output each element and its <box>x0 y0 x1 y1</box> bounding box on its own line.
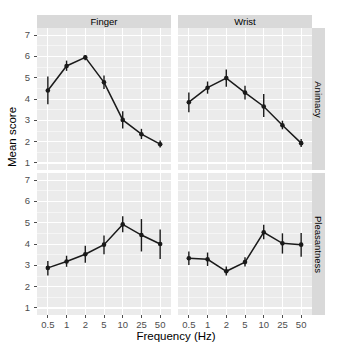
y-tick-mark <box>34 244 37 245</box>
facet-strip-animacy: Animacy <box>312 28 325 170</box>
panel-finger-animacy <box>37 28 171 170</box>
data-point <box>261 104 266 109</box>
y-tick-mark <box>34 286 37 287</box>
panel-wrist-animacy <box>178 28 312 170</box>
series-group <box>178 173 312 315</box>
data-point <box>205 257 210 262</box>
panel-wrist-pleasantness <box>178 173 312 315</box>
x-tick-mark <box>301 315 302 318</box>
y-tick-label: 6 <box>8 50 30 61</box>
data-point <box>102 80 107 85</box>
chart-root: Mean score Frequency (Hz) Finger Wrist A… <box>0 0 352 353</box>
y-tick-mark <box>34 35 37 36</box>
data-point <box>83 252 88 257</box>
facet-strip-finger-label: Finger <box>91 16 118 27</box>
y-tick-label: 4 <box>8 93 30 104</box>
x-tick-mark <box>282 315 283 318</box>
facet-strip-animacy-label: Animacy <box>313 81 324 117</box>
x-tick-mark <box>141 315 142 318</box>
data-point <box>280 123 285 128</box>
data-point <box>46 88 51 93</box>
facet-strip-pleasantness: Pleasantness <box>312 173 325 315</box>
data-point <box>299 242 304 247</box>
y-tick-label: 1 <box>8 157 30 168</box>
data-point <box>243 260 248 265</box>
y-tick-mark <box>34 307 37 308</box>
x-tick-label: 50 <box>289 319 313 330</box>
x-tick-mark <box>104 315 105 318</box>
data-point <box>120 118 125 123</box>
series-group <box>178 28 312 170</box>
y-tick-mark <box>34 162 37 163</box>
data-point <box>187 100 192 105</box>
data-point <box>64 259 69 264</box>
y-tick-mark <box>34 201 37 202</box>
data-point <box>139 233 144 238</box>
data-point <box>187 256 192 261</box>
x-tick-mark <box>188 315 189 318</box>
panel-finger-pleasantness <box>37 173 171 315</box>
series-group <box>37 173 171 315</box>
y-tick-label: 2 <box>8 136 30 147</box>
x-tick-mark <box>122 315 123 318</box>
data-point <box>158 142 163 147</box>
y-tick-mark <box>34 56 37 57</box>
y-tick-label: 1 <box>8 302 30 313</box>
data-point <box>120 222 125 227</box>
y-tick-label: 5 <box>8 217 30 228</box>
x-tick-mark <box>66 315 67 318</box>
series-line <box>48 57 160 144</box>
facet-strip-wrist: Wrist <box>178 15 312 28</box>
x-axis-title: Frequency (Hz) <box>0 330 352 342</box>
x-tick-label: 50 <box>148 319 172 330</box>
data-point <box>299 141 304 146</box>
x-tick-mark <box>85 315 86 318</box>
x-tick-mark <box>207 315 208 318</box>
y-tick-mark <box>34 141 37 142</box>
data-point <box>139 132 144 137</box>
y-tick-mark <box>34 77 37 78</box>
data-point <box>102 242 107 247</box>
y-tick-label: 2 <box>8 281 30 292</box>
x-tick-mark <box>263 315 264 318</box>
y-tick-mark <box>34 222 37 223</box>
data-point <box>46 266 51 271</box>
x-tick-mark <box>226 315 227 318</box>
y-tick-mark <box>34 265 37 266</box>
data-point <box>64 64 69 69</box>
y-tick-mark <box>34 120 37 121</box>
data-point <box>224 76 229 81</box>
facet-strip-finger: Finger <box>37 15 171 28</box>
y-tick-label: 7 <box>8 29 30 40</box>
data-point <box>205 85 210 90</box>
y-tick-label: 3 <box>8 259 30 270</box>
data-point <box>83 55 88 60</box>
facet-strip-pleasantness-label: Pleasantness <box>313 215 324 272</box>
x-tick-mark <box>47 315 48 318</box>
y-tick-label: 6 <box>8 195 30 206</box>
y-tick-label: 3 <box>8 114 30 125</box>
facet-strip-wrist-label: Wrist <box>234 16 255 27</box>
y-tick-mark <box>34 180 37 181</box>
series-group <box>37 28 171 170</box>
y-tick-label: 4 <box>8 238 30 249</box>
x-tick-mark <box>160 315 161 318</box>
data-point <box>261 230 266 235</box>
x-tick-mark <box>245 315 246 318</box>
data-point <box>280 241 285 246</box>
data-point <box>158 242 163 247</box>
y-tick-label: 7 <box>8 174 30 185</box>
data-point <box>243 90 248 95</box>
y-tick-mark <box>34 99 37 100</box>
y-tick-label: 5 <box>8 72 30 83</box>
data-point <box>224 269 229 274</box>
